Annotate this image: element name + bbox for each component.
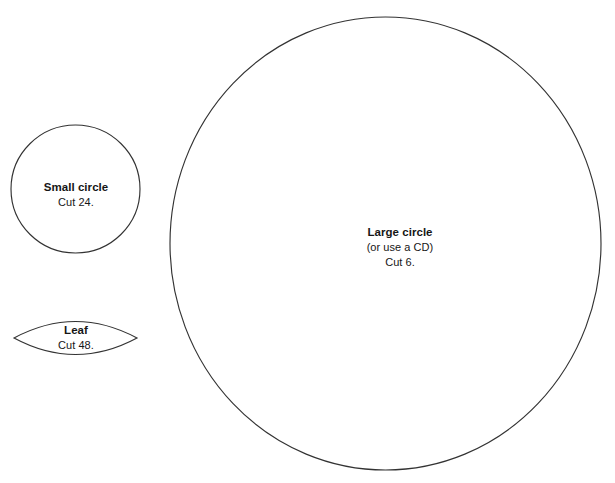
small-circle-quantity: Cut 24. xyxy=(0,195,152,210)
large-circle-alt-note: (or use a CD) xyxy=(300,240,500,255)
leaf-quantity: Cut 48. xyxy=(0,338,152,353)
large-circle-quantity: Cut 6. xyxy=(300,255,500,270)
large-circle-title: Large circle xyxy=(300,225,500,240)
small-circle-label: Small circle Cut 24. xyxy=(0,180,152,210)
leaf-title: Leaf xyxy=(0,323,152,338)
pattern-template-sheet: Small circle Cut 24. Leaf Cut 48. Large … xyxy=(0,0,615,483)
small-circle-title: Small circle xyxy=(0,180,152,195)
large-circle-label: Large circle (or use a CD) Cut 6. xyxy=(300,225,500,269)
leaf-label: Leaf Cut 48. xyxy=(0,323,152,353)
